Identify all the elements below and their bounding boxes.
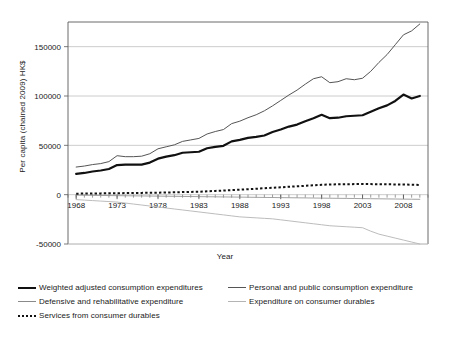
legend-label: Weighted adjusted consumption expenditur…	[39, 283, 203, 292]
chart-legend: Weighted adjusted consumption expenditur…	[18, 280, 443, 322]
legend-item[interactable]: Defensive and rehabilitative expenditure	[18, 296, 228, 306]
chart-figure: Per capita (chained 2009) HK$ Year -5000…	[0, 0, 450, 337]
legend-label: Personal and public consumption expendit…	[249, 283, 413, 292]
legend-swatch-icon	[18, 282, 36, 292]
y-tick-label: 100000	[34, 92, 61, 101]
legend-swatch-icon	[228, 296, 246, 306]
legend-swatch-icon	[18, 296, 36, 306]
series-line	[76, 184, 420, 194]
x-tick-label: 1968	[67, 201, 85, 210]
y-tick-label: 150000	[34, 43, 61, 52]
y-tick-label: -50000	[36, 240, 61, 249]
legend-item[interactable]: Services from consumer durables	[18, 310, 228, 320]
legend-label: Defensive and rehabilitative expenditure	[39, 297, 183, 306]
x-tick-label: 1978	[149, 201, 167, 210]
y-tick-label: 0	[57, 191, 62, 200]
x-tick-label: 2008	[395, 201, 413, 210]
x-tick-label: 1993	[272, 201, 290, 210]
y-tick-label: 50000	[39, 142, 62, 151]
y-axis-ticks: -50000050000100000150000	[34, 43, 68, 249]
legend-item[interactable]: Weighted adjusted consumption expenditur…	[18, 282, 228, 292]
series-line	[76, 95, 420, 174]
x-tick-label: 1988	[231, 201, 249, 210]
x-tick-label: 1998	[313, 201, 331, 210]
legend-row: Weighted adjusted consumption expenditur…	[18, 280, 443, 294]
legend-item[interactable]: Expenditure on consumer durables	[228, 296, 443, 306]
legend-row: Services from consumer durables	[18, 308, 443, 322]
legend-row: Defensive and rehabilitative expenditure…	[18, 294, 443, 308]
gridlines	[68, 47, 428, 244]
legend-label: Services from consumer durables	[39, 311, 160, 320]
plot-frame	[68, 22, 428, 244]
legend-swatch-icon	[228, 282, 246, 292]
legend-swatch-icon	[18, 310, 36, 320]
data-series	[76, 24, 420, 244]
legend-label: Expenditure on consumer durables	[249, 297, 375, 306]
x-tick-label: 1983	[190, 201, 208, 210]
legend-item[interactable]: Personal and public consumption expendit…	[228, 282, 443, 292]
x-tick-label: 2003	[354, 201, 372, 210]
